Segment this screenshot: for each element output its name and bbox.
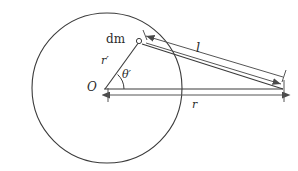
- radius-r-prime-line: [105, 42, 139, 89]
- distance-l-arrow-left: [146, 36, 283, 77]
- label-origin: O: [87, 81, 97, 93]
- distance-l-tick-start: [143, 30, 147, 40]
- label-radius-r-prime: r′: [101, 55, 109, 66]
- label-angle-theta-prime: θ′: [122, 69, 131, 80]
- figure-canvas: dm l r′ θ′ O r: [0, 0, 298, 171]
- physics-diagram: [0, 0, 298, 171]
- dm-point-marker: [136, 38, 141, 43]
- label-dm: dm: [106, 33, 125, 45]
- dm-to-field-line: [142, 44, 283, 89]
- label-distance-l: l: [196, 41, 200, 54]
- distance-l-arrow-right: [146, 43, 281, 84]
- label-radius-r: r: [192, 99, 197, 110]
